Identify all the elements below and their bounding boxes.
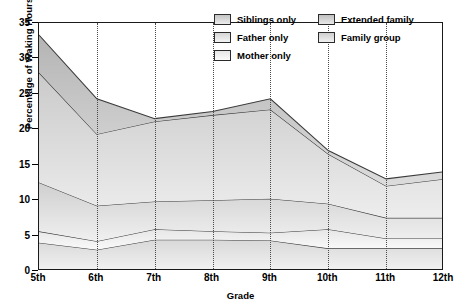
y-tick-mark-5 [32,235,38,236]
legend-item-family-group: Family group [318,32,432,43]
legend-swatch-extended-family [318,14,335,25]
y-tick-label-15: 15 [0,158,30,169]
y-tick-mark-30 [32,57,38,58]
y-tick-label-20: 20 [0,123,30,134]
y-axis-ticks: 05101520253035 [0,0,30,308]
y-tick-label-10: 10 [0,194,30,205]
x-axis-title: Grade [38,290,443,301]
legend-column-right: Extended family Family group [318,14,432,61]
x-tick-label-7th: 7th [124,272,184,283]
legend-swatch-father-only [214,32,231,43]
y-tick-mark-35 [32,22,38,23]
x-tick-label-8th: 8th [182,272,242,283]
legend-label-extended-family: Extended family [341,14,414,25]
y-tick-mark-25 [32,93,38,94]
x-tick-label-10th: 10th [297,272,357,283]
legend-item-extended-family: Extended family [318,14,432,25]
legend-label-mother-only: Mother only [237,50,291,61]
y-tick-mark-20 [32,128,38,129]
x-tick-label-9th: 9th [239,272,299,283]
y-tick-label-25: 25 [0,87,30,98]
x-tick-label-11th: 11th [355,272,415,283]
legend-item-father-only: Father only [214,32,318,43]
y-tick-label-5: 5 [0,229,30,240]
y-tick-mark-0 [32,270,38,271]
legend-label-father-only: Father only [237,32,288,43]
chart-legend: Siblings only Father only Mother only Ex… [214,14,432,61]
y-tick-label-35: 35 [0,17,30,28]
y-tick-label-30: 30 [0,52,30,63]
legend-swatch-mother-only [214,50,231,61]
y-tick-mark-10 [32,199,38,200]
legend-swatch-family-group [318,32,335,43]
x-tick-label-5th: 5th [8,272,68,283]
legend-label-siblings-only: Siblings only [237,14,296,25]
legend-column-left: Siblings only Father only Mother only [214,14,318,61]
legend-label-family-group: Family group [341,32,401,43]
x-tick-label-12th: 12th [413,272,458,283]
legend-item-mother-only: Mother only [214,50,318,61]
y-tick-mark-15 [32,164,38,165]
legend-item-siblings-only: Siblings only [214,14,318,25]
x-tick-label-6th: 6th [66,272,126,283]
legend-swatch-siblings-only [214,14,231,25]
gridline-6th [97,23,98,269]
gridline-7th [155,23,156,269]
area-band-siblings-only [39,73,443,218]
